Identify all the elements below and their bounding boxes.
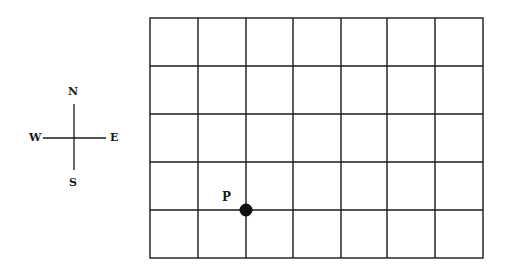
compass-south-label: S [69,176,77,189]
compass-east-label: E [110,131,118,144]
point-p-label: P [222,190,231,204]
point-p-marker [240,204,253,217]
compass [43,104,106,170]
grid-border [150,18,483,258]
compass-north-label: N [68,85,78,98]
grid [150,18,483,258]
diagram-canvas [0,0,505,274]
compass-west-label: W [29,131,41,144]
